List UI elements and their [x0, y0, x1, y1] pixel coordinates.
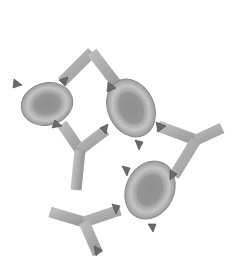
red-blood-cell-3 [116, 153, 185, 228]
antigen-icon [13, 79, 22, 88]
antigen-icon [135, 140, 143, 150]
antibody-top [62, 16, 118, 86]
agglutination-illustration [0, 0, 237, 268]
antibody-middle-left [62, 124, 106, 190]
antibody-bottom [50, 210, 120, 254]
red-blood-cell-1 [16, 77, 77, 131]
antigen-icon [122, 166, 130, 176]
antigen-icon [148, 224, 156, 232]
